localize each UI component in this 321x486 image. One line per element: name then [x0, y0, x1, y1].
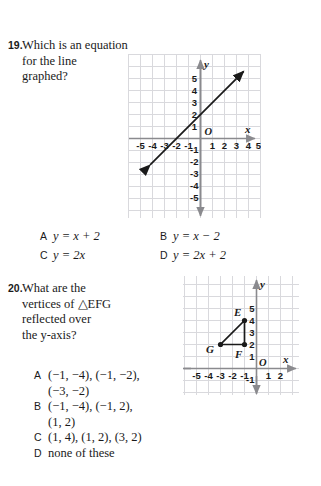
choice-19-B[interactable]: B y = x − 2	[160, 228, 280, 244]
choice-20-C-letter: C	[34, 430, 48, 445]
x-tick-neg5: -5	[136, 140, 145, 151]
vertex-F-point	[242, 342, 247, 347]
question-20-stem-line-2: vertices of △EFG	[22, 297, 130, 313]
choice-19-A-text: y = x + 2	[53, 228, 100, 244]
choice-19-C-letter: C	[40, 247, 53, 263]
question-20-stem-line-1: What are the	[22, 281, 130, 297]
y-axis-label: y	[258, 278, 265, 290]
x-tick-5: 5	[256, 140, 261, 151]
x-tick-2: 2	[222, 140, 227, 151]
vertex-G-point	[218, 342, 223, 347]
choice-19-B-letter: B	[160, 228, 173, 244]
vertex-G-label: G	[206, 343, 214, 355]
y-tick-4: 4	[192, 85, 198, 96]
choice-20-D[interactable]: D none of these	[34, 446, 204, 461]
graph-line-svg: 5 4 3 2 1 -1 -2 -3 -4 -5 -5 -4 -3 -2 -1 …	[127, 54, 261, 220]
question-20-stem: What are the vertices of △EFG reflected …	[22, 281, 130, 343]
choice-20-B[interactable]: B (−1, −4), (−1, 2),	[34, 399, 204, 414]
question-19-choices: A y = x + 2 B y = x − 2 C y = 2x D y = 2…	[40, 228, 280, 263]
vertex-E-label: E	[233, 306, 241, 318]
choice-20-C-line-1: (1, 4), (1, 2), (3, 2)	[48, 430, 142, 445]
axis-names: y x O	[202, 58, 251, 137]
question-20-stem-line-3: reflected over	[22, 312, 130, 328]
x-tick-neg3: -3	[216, 370, 224, 381]
choice-20-B-line-1: (−1, −4), (−1, 2),	[48, 399, 133, 414]
y-tick-5: 5	[192, 73, 198, 84]
choice-20-D-letter: D	[34, 446, 48, 461]
x-tick-neg3: -3	[160, 140, 168, 151]
choice-19-A-letter: A	[40, 228, 53, 244]
y-tick-neg4: -4	[190, 180, 199, 191]
choice-19-A[interactable]: A y = x + 2	[40, 228, 160, 244]
question-20-header: 20. What are the vertices of △EFG reflec…	[0, 281, 130, 343]
vertex-F-label: F	[234, 348, 243, 360]
x-axis-label: x	[282, 353, 289, 365]
origin-label: O	[205, 126, 213, 137]
x-tick-2: 2	[278, 370, 283, 381]
choice-19-D-text: y = 2x + 2	[173, 247, 226, 263]
question-19-header: 19. Which is an equation for the line gr…	[0, 38, 130, 85]
y-tick-neg2: -2	[190, 156, 198, 167]
question-20-stem-line-4: the y-axis?	[22, 328, 130, 344]
y-tick-2: 2	[249, 339, 254, 350]
y-tick-4: 4	[249, 315, 255, 326]
y-tick-1: 1	[192, 121, 198, 132]
x-tick-neg4: -4	[204, 370, 213, 381]
question-20: 20. What are the vertices of △EFG reflec…	[0, 281, 130, 343]
axis-names: y x O	[258, 278, 289, 368]
y-tick-3: 3	[192, 97, 197, 108]
question-19-stem-line-3: graphed?	[22, 69, 130, 85]
choice-20-A-line-2: (−3, −2)	[34, 384, 204, 399]
choice-20-A-letter: A	[34, 368, 48, 383]
choice-19-B-text: y = x − 2	[173, 228, 220, 244]
question-19-stem-line-1: Which is an equation	[22, 38, 130, 54]
graph-line-coordinate-plane: 5 4 3 2 1 -1 -2 -3 -4 -5 -5 -4 -3 -2 -1 …	[127, 54, 261, 220]
choice-20-B-line-2: (1, 2)	[34, 415, 204, 430]
choice-20-A-line-1: (−1, −4), (−1, −2),	[48, 368, 140, 383]
question-19: 19. Which is an equation for the line gr…	[0, 38, 130, 85]
x-tick-1: 1	[210, 140, 216, 151]
y-tick-neg5: -5	[190, 192, 199, 203]
origin-label: O	[259, 357, 267, 368]
question-19-number: 19.	[0, 38, 22, 53]
choice-19-C-text: y = 2x	[53, 247, 85, 263]
y-axis-label: y	[202, 58, 209, 70]
y-tick-3: 3	[249, 327, 254, 338]
choice-20-C[interactable]: C (1, 4), (1, 2), (3, 2)	[34, 430, 204, 445]
x-tick-neg2: -2	[228, 370, 236, 381]
choice-19-C[interactable]: C y = 2x	[40, 247, 160, 263]
choice-20-B-letter: B	[34, 399, 48, 414]
y-tick-2: 2	[192, 109, 197, 120]
y-tick-1: 1	[249, 351, 255, 362]
x-tick-neg2: -2	[172, 140, 180, 151]
choice-20-D-line-1: none of these	[48, 446, 115, 461]
x-tick-neg1: -1	[240, 370, 249, 381]
x-axis-label: x	[244, 123, 251, 135]
choice-20-A[interactable]: A (−1, −4), (−1, −2),	[34, 368, 204, 383]
question-20-number: 20.	[0, 281, 22, 296]
question-19-stem-line-2: for the line	[22, 54, 130, 70]
y-tick-neg3: -3	[190, 168, 198, 179]
x-tick-4: 4	[246, 140, 252, 151]
question-20-choices: A (−1, −4), (−1, −2), (−3, −2) B (−1, −4…	[34, 368, 204, 462]
y-tick-5: 5	[249, 303, 255, 314]
x-tick-neg4: -4	[148, 140, 157, 151]
x-tick-3: 3	[234, 140, 239, 151]
question-19-stem: Which is an equation for the line graphe…	[22, 38, 130, 85]
choice-19-D-letter: D	[160, 247, 173, 263]
vertex-E-point	[242, 318, 247, 323]
choice-19-D[interactable]: D y = 2x + 2	[160, 247, 280, 263]
x-tick-neg1: -1	[184, 140, 193, 151]
x-tick-1: 1	[266, 370, 272, 381]
